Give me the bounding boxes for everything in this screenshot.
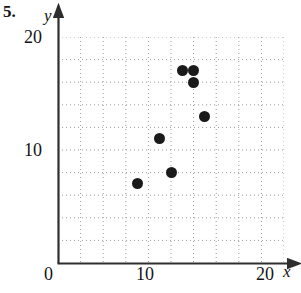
data-point	[166, 167, 177, 178]
data-point	[132, 178, 143, 189]
data-point	[188, 65, 199, 76]
data-point	[199, 111, 210, 122]
scatter-plot-figure: 5. y x 20 10 0 10 20	[0, 0, 301, 293]
data-point	[177, 65, 188, 76]
data-points-layer	[0, 0, 301, 293]
data-point	[154, 133, 165, 144]
data-point	[188, 77, 199, 88]
